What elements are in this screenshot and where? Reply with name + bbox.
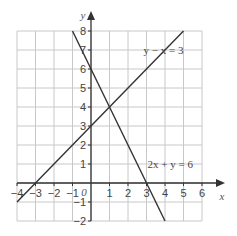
y-tick-label: 8 bbox=[80, 25, 86, 37]
x-tick-label: 4 bbox=[162, 187, 168, 199]
y-tick-label: 2 bbox=[80, 139, 86, 151]
x-axis-label: x bbox=[219, 190, 225, 202]
x-tick-label: −2 bbox=[48, 187, 61, 199]
y-tick-label: −2 bbox=[73, 215, 86, 227]
equation-label-2: 2x + y = 6 bbox=[148, 158, 194, 170]
y-tick-label: 7 bbox=[80, 44, 86, 56]
y-tick-label: 5 bbox=[80, 82, 86, 94]
y-tick-label: 3 bbox=[80, 120, 86, 132]
x-tick-label: −3 bbox=[29, 187, 42, 199]
graph: −4−3−2−1123456−2−112345678 x y 0 y − x =… bbox=[0, 0, 237, 236]
origin-label: 0 bbox=[81, 186, 87, 198]
y-tick-label: 4 bbox=[80, 101, 86, 113]
equation-label-1: y − x = 3 bbox=[144, 44, 184, 56]
y-axis-arrow-icon bbox=[87, 11, 95, 20]
x-tick-label: 6 bbox=[199, 187, 205, 199]
x-tick-label: 5 bbox=[180, 187, 186, 199]
y-axis-label: y bbox=[80, 9, 86, 21]
y-tick-label: 6 bbox=[80, 63, 86, 75]
x-tick-label: 2 bbox=[125, 187, 131, 199]
x-tick-label: 1 bbox=[106, 187, 112, 199]
x-axis-arrow-icon bbox=[216, 179, 225, 187]
line-1 bbox=[17, 31, 184, 202]
y-tick-label: 1 bbox=[80, 158, 86, 170]
